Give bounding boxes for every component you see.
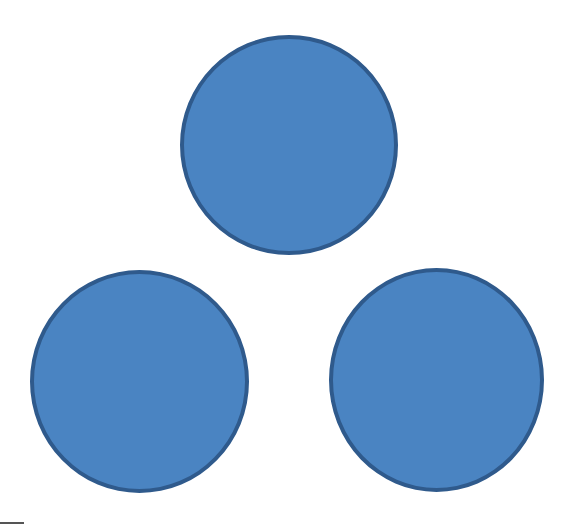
circle-bottom-left <box>30 270 249 493</box>
circle-top <box>180 35 398 255</box>
circle-bottom-right <box>329 268 544 492</box>
corner-mark <box>0 522 24 524</box>
